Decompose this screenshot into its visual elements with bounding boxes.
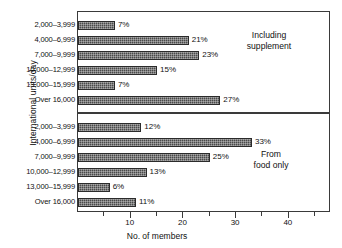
bar-rows-top: 2,000–3,9997%4,000–6,99921%7,000–9,99923… bbox=[78, 12, 329, 112]
bar-value-label: 7% bbox=[118, 20, 130, 29]
category-label: 10,000–12,999 bbox=[26, 167, 75, 176]
category-label: 4,000–6,999 bbox=[34, 137, 75, 146]
bar-value-label: 12% bbox=[144, 122, 160, 131]
bar bbox=[78, 183, 110, 192]
bar bbox=[78, 81, 115, 90]
bar-value-label: 27% bbox=[223, 95, 239, 104]
category-label: 7,000–9,999 bbox=[34, 152, 75, 161]
bar-value-label: 25% bbox=[213, 152, 229, 161]
bar bbox=[78, 153, 210, 162]
bar-row: 7,000–9,99923% bbox=[78, 51, 329, 60]
bar bbox=[78, 96, 220, 105]
x-tick-major bbox=[182, 212, 183, 218]
bar-row: 4,000–6,99933% bbox=[78, 138, 329, 147]
x-tick-label: 10 bbox=[125, 218, 134, 227]
x-tick-minor bbox=[156, 212, 157, 216]
bar-value-label: 11% bbox=[139, 197, 154, 206]
x-axis: No. of members 10203040 bbox=[77, 212, 330, 248]
x-tick-label: 40 bbox=[283, 218, 292, 227]
bar bbox=[78, 51, 199, 60]
bar-row: 2,000–3,99912% bbox=[78, 123, 329, 132]
bar-value-label: 13% bbox=[150, 167, 166, 176]
bar-value-label: 7% bbox=[118, 80, 130, 89]
x-tick-label: 30 bbox=[231, 218, 240, 227]
bar bbox=[78, 21, 115, 30]
bar-value-label: 23% bbox=[202, 50, 218, 59]
category-label: 13,000–15,999 bbox=[26, 80, 75, 89]
x-tick-label: 20 bbox=[178, 218, 187, 227]
x-tick-major bbox=[130, 212, 131, 218]
bar-value-label: 21% bbox=[192, 35, 208, 44]
bar bbox=[78, 66, 157, 75]
bar-value-label: 33% bbox=[255, 137, 271, 146]
panel-from-food-only: 2,000–3,99912%4,000–6,99933%7,000–9,9992… bbox=[77, 113, 330, 212]
x-tick-minor bbox=[261, 212, 262, 216]
bar-value-label: 15% bbox=[160, 65, 176, 74]
x-tick-major bbox=[235, 212, 236, 218]
bar-row: Over 16,00027% bbox=[78, 96, 329, 105]
bar bbox=[78, 198, 136, 207]
panel-note-including-supplement: Including supplement bbox=[227, 30, 311, 51]
category-label: 4,000–6,999 bbox=[34, 35, 75, 44]
bar-row: Over 16,00011% bbox=[78, 198, 329, 207]
x-axis-title: No. of members bbox=[77, 231, 237, 241]
category-label: Over 16,000 bbox=[35, 95, 75, 104]
bar-row: 13,000–15,9997% bbox=[78, 81, 329, 90]
bar-row: 2,000–3,9997% bbox=[78, 21, 329, 30]
panel-note-from-food-only: From food only bbox=[233, 149, 309, 170]
panel-including-supplement: 2,000–3,9997%4,000–6,99921%7,000–9,99923… bbox=[77, 11, 330, 113]
bar-row: 10,000–12,99915% bbox=[78, 66, 329, 75]
bar-row: 13,000–15,9996% bbox=[78, 183, 329, 192]
bar bbox=[78, 138, 252, 147]
x-tick-minor bbox=[209, 212, 210, 216]
category-label: Over 16,000 bbox=[35, 197, 75, 206]
category-label: 10,000–12,999 bbox=[26, 65, 75, 74]
bar bbox=[78, 168, 147, 177]
category-label: 7,000–9,999 bbox=[34, 50, 75, 59]
bar-value-label: 6% bbox=[113, 182, 125, 191]
bar bbox=[78, 123, 141, 132]
category-label: 13,000–15,999 bbox=[26, 182, 75, 191]
chart-figure: International units/day 2,000–3,9997%4,0… bbox=[0, 0, 342, 248]
category-label: 2,000–3,999 bbox=[34, 122, 75, 131]
x-tick-minor bbox=[103, 212, 104, 216]
x-tick-minor bbox=[314, 212, 315, 216]
bar bbox=[78, 36, 189, 45]
x-tick-major bbox=[288, 212, 289, 218]
category-label: 2,000–3,999 bbox=[34, 20, 75, 29]
